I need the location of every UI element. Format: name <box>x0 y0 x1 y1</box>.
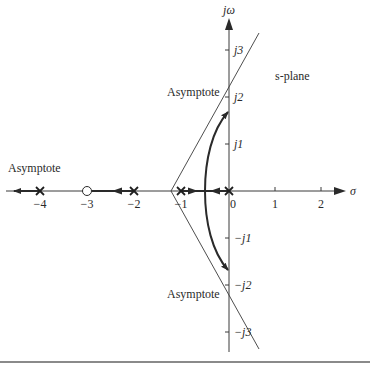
imaginary-axis <box>225 18 233 352</box>
plane-label: s-plane <box>275 69 310 83</box>
tick-label: 2 <box>318 197 324 211</box>
tick-label: j3 <box>232 43 243 57</box>
tick-label: 1 <box>272 197 278 211</box>
tick-label: j2 <box>232 90 243 104</box>
tick-label: j1 <box>232 137 243 151</box>
asymptote-label-lower: Asymptote <box>167 287 220 301</box>
tick-label: −1 <box>175 197 188 211</box>
tick-label: −2 <box>128 197 141 211</box>
tick-label: −j1 <box>234 231 251 245</box>
tick-label: −j2 <box>234 278 251 292</box>
tick-label: −4 <box>34 197 47 211</box>
tick-label: 0 <box>230 197 236 211</box>
root-locus-figure: −4 −3 −2 −1 0 1 2 j3 j2 j1 −j1 −j2 −j3 j… <box>0 0 370 377</box>
arrow-left-icon <box>112 188 122 195</box>
real-axis-arrow-icon <box>334 187 346 195</box>
real-axis-label: σ <box>350 184 357 198</box>
real-axis <box>6 187 346 195</box>
bottom-divider <box>0 361 370 363</box>
upper-asymptote-line <box>171 33 259 191</box>
tick-label: −3 <box>81 197 94 211</box>
imag-axis-arrow-icon <box>225 18 233 30</box>
asymptote-label-left: Asymptote <box>8 161 61 175</box>
zero-marker-icon <box>83 187 92 196</box>
arrow-right-icon <box>188 188 198 195</box>
arrow-left-icon <box>210 188 220 195</box>
imag-axis-label: jω <box>221 3 235 17</box>
real-tick-labels: −4 −3 −2 −1 0 1 2 <box>34 197 324 211</box>
asymptote-label-upper: Asymptote <box>167 85 220 99</box>
tick-label: −j3 <box>234 325 251 339</box>
